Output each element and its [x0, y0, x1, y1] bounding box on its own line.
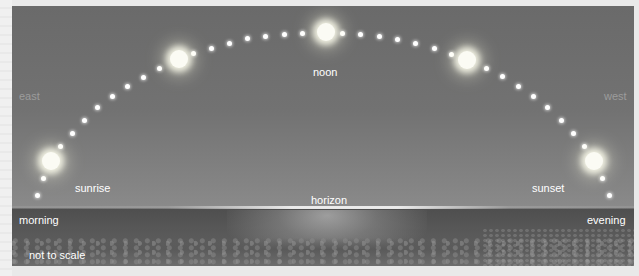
sun-path-dot [600, 176, 605, 181]
sun-path-dot [35, 193, 40, 198]
sun-path-dot [95, 105, 100, 110]
sun-path-dot [559, 118, 564, 123]
sun-path-dot [484, 66, 489, 71]
sun-path-dot [110, 94, 115, 99]
noon-sun-icon [317, 23, 335, 41]
sun-path-dot [300, 31, 305, 36]
sun-path-dot [545, 105, 550, 110]
sun-path-dot [500, 74, 505, 79]
sun-path-dot [209, 46, 214, 51]
label-not-to-scale: not to scale [29, 249, 85, 261]
sun-path-dot [413, 41, 418, 46]
sun-path-dot [395, 37, 400, 42]
sun-path-photo [12, 6, 634, 266]
shoreline-rocks [482, 228, 634, 266]
sun-path-dot [245, 36, 250, 41]
horizon-line [12, 206, 634, 209]
sun-path-dot [141, 75, 146, 80]
label-sunset: sunset [532, 182, 564, 194]
label-east: east [19, 90, 40, 102]
sun-path-dot [358, 32, 363, 37]
sunrise-sun-icon [42, 152, 60, 170]
sun-path-dot [582, 144, 587, 149]
sun-path-dot [58, 144, 63, 149]
afternoon-sun-icon [458, 51, 476, 69]
sun-path-dot [432, 46, 437, 51]
sun-path-dot [157, 66, 162, 71]
sun-path-dot [607, 193, 612, 198]
sun-path-dot [82, 118, 87, 123]
sun-path-dot [125, 84, 130, 89]
sun-path-dot [263, 34, 268, 39]
label-west: west [604, 90, 627, 102]
sun-path-dot [449, 52, 454, 57]
label-noon: noon [313, 66, 337, 78]
sun-path-dot [377, 34, 382, 39]
sun-path-dot [531, 94, 536, 99]
label-horizon: horizon [311, 194, 347, 206]
sun-path-dot [516, 84, 521, 89]
sun-path-dot [340, 31, 345, 36]
sun-path-dot [41, 176, 46, 181]
sun-path-dot [571, 131, 576, 136]
page-margin [0, 0, 12, 276]
sun-path-dot [227, 41, 232, 46]
sun-path-dot [282, 32, 287, 37]
label-sunrise: sunrise [75, 182, 110, 194]
morning-sun-icon [170, 50, 188, 68]
label-evening: evening [587, 214, 626, 226]
sun-path-dot [70, 131, 75, 136]
label-morning: morning [19, 214, 59, 226]
sunset-sun-icon [585, 152, 603, 170]
sun-path-dot [191, 51, 196, 56]
